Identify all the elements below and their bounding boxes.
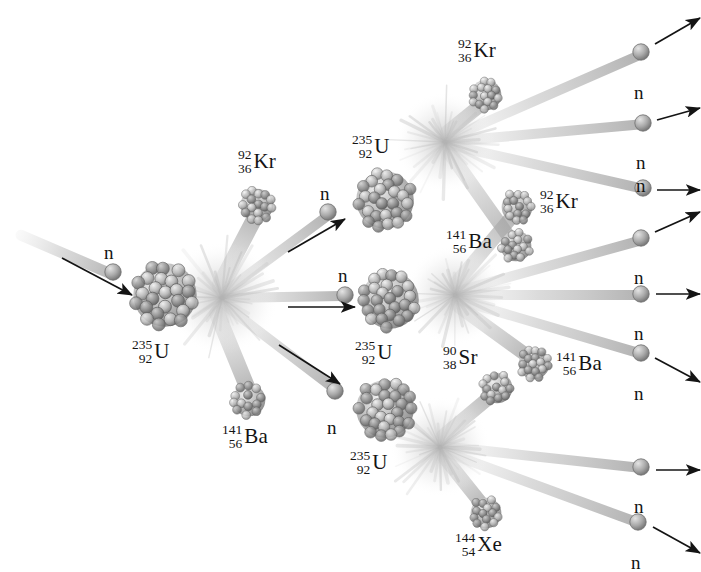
nucleon <box>252 384 261 393</box>
element-symbol: U <box>154 341 169 362</box>
burst-ray <box>445 140 479 142</box>
neutron-n-g1-c <box>327 383 343 399</box>
mass-number: 92 <box>238 148 252 162</box>
isotope-numbers: 14156 <box>222 423 242 451</box>
nucleon <box>365 426 377 438</box>
atomic-number: 92 <box>350 463 370 477</box>
neutron-n-out-5 <box>633 286 649 302</box>
isotope-numbers: 9236 <box>540 188 554 216</box>
neutron-label-n-out-3: n <box>636 176 646 195</box>
nucleon <box>361 392 373 404</box>
neutron-sphere <box>633 345 649 361</box>
mass-number: 235 <box>352 133 372 147</box>
nucleon <box>501 392 509 400</box>
nucleon <box>262 213 271 222</box>
element-symbol: Ba <box>578 353 602 374</box>
nucleon <box>365 313 377 325</box>
nucleon <box>141 312 154 325</box>
neutron-label-n-out-1: n <box>634 83 644 102</box>
nucleon <box>487 496 495 504</box>
nucleon <box>174 314 187 327</box>
nucleon <box>266 195 275 204</box>
nucleon <box>402 198 414 210</box>
mass-number: 90 <box>443 344 457 358</box>
neutron-sphere <box>635 115 651 131</box>
element-symbol: Sr <box>459 347 478 368</box>
neutron-label-n-out-8: n <box>631 553 641 572</box>
motion-arrow-n-out-6 <box>655 358 700 382</box>
nucleon <box>244 402 253 411</box>
neutron-sphere <box>327 383 343 399</box>
nucleon <box>244 381 253 390</box>
mass-number: 235 <box>355 339 375 353</box>
nucleon <box>376 198 388 210</box>
mass-number: 235 <box>350 449 370 463</box>
motion-arrow-n-out-1 <box>655 18 700 44</box>
element-symbol: Ba <box>244 426 268 447</box>
isotope-numbers: 23592 <box>132 338 152 366</box>
nucleon <box>525 247 533 255</box>
element-symbol: Kr <box>556 191 579 212</box>
nucleon <box>490 101 498 109</box>
nucleon <box>526 374 534 382</box>
neutron-n-out-6 <box>633 345 649 361</box>
isotope-label-u1: 23592U <box>352 133 390 161</box>
isotope-numbers: 14156 <box>446 228 466 256</box>
neutron-label-n-out-5: n <box>634 324 644 343</box>
neutron-n-out-1 <box>633 44 649 60</box>
nucleon <box>152 318 165 331</box>
neutron-n-out-4 <box>633 230 649 246</box>
nucleon <box>159 286 172 299</box>
isotope-label-ba2: 14156Ba <box>446 228 492 256</box>
neutron-label-n-out-7: n <box>634 497 644 516</box>
nucleus-sr1 <box>479 371 514 405</box>
isotope-label-u0: 23592U <box>132 338 170 366</box>
particle-trail-layer <box>14 49 645 527</box>
element-symbol: U <box>372 452 387 473</box>
element-symbol: Kr <box>254 151 277 172</box>
nucleon <box>140 301 153 314</box>
nucleus-ba1 <box>229 381 265 419</box>
nucleon <box>405 402 417 414</box>
nucleon <box>182 285 195 298</box>
nucleon <box>473 519 481 527</box>
neutron-sphere <box>633 286 649 302</box>
isotope-numbers: 9038 <box>443 344 457 372</box>
isotope-label-u2: 23592U <box>355 339 393 367</box>
isotope-label-kr2: 9236Kr <box>458 37 496 65</box>
nucleon <box>381 321 393 333</box>
isotope-numbers: 9236 <box>238 148 252 176</box>
element-symbol: U <box>377 342 392 363</box>
neutron-n-g1-b <box>337 287 353 303</box>
isotope-label-u3: 23592U <box>350 449 388 477</box>
atomic-number: 56 <box>556 364 576 378</box>
nucleon <box>392 217 404 229</box>
motion-arrow-n-g1-c <box>279 345 340 384</box>
atomic-number: 92 <box>355 353 375 367</box>
element-symbol: Kr <box>474 40 497 61</box>
nucleon <box>254 216 263 225</box>
neutron-n-in <box>105 264 121 280</box>
nucleon <box>516 253 524 261</box>
neutron-label-n-out-2: n <box>636 153 646 172</box>
mass-number: 144 <box>455 531 475 545</box>
nucleon <box>515 228 523 236</box>
nucleus-ba3 <box>518 346 552 382</box>
neutron-sphere <box>105 264 121 280</box>
mass-number: 92 <box>458 37 472 51</box>
isotope-numbers: 9236 <box>458 37 472 65</box>
isotope-label-sr1: 9038Sr <box>443 344 478 372</box>
nucleon <box>385 429 397 441</box>
isotope-label-kr1: 9236Kr <box>238 148 276 176</box>
neutron-sphere <box>633 459 649 475</box>
nucleon <box>480 105 488 113</box>
nucleon <box>527 202 535 210</box>
nucleon <box>233 405 242 414</box>
nucleon <box>504 254 512 262</box>
neutron-sphere <box>633 230 649 246</box>
atomic-number: 36 <box>238 162 252 176</box>
isotope-numbers: 23592 <box>355 339 375 367</box>
neutron-label-n-out-6: n <box>634 384 644 403</box>
isotope-label-ba3: 14156Ba <box>556 350 602 378</box>
isotope-numbers: 14454 <box>455 531 475 559</box>
